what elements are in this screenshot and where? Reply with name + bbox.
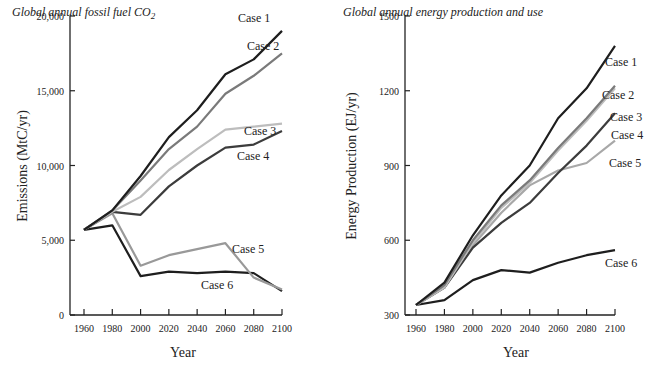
energy-line-case-1 (416, 46, 615, 305)
emissions-y-tick-label: 20,000 (37, 11, 65, 22)
energy-line-case-6 (416, 250, 615, 305)
energy-x-tick-label: 2020 (491, 323, 511, 334)
emissions-y-tick-label: 5,000 (42, 235, 65, 246)
emissions-x-tick-label: 1960 (74, 323, 94, 334)
energy-x-tick-label: 2060 (548, 323, 568, 334)
energy-label-case-6: Case 6 (605, 256, 637, 270)
energy-y-tick-label: 300 (384, 310, 399, 321)
energy-y-tick-label: 600 (384, 235, 399, 246)
energy-label-case-1: Case 1 (605, 55, 637, 69)
energy-y-axis-title: Energy Production (EJ/yr) (344, 92, 360, 240)
emissions-x-tick-label: 2060 (215, 323, 235, 334)
emissions-y-axis-title: Emissions (MtC/yr) (15, 110, 31, 222)
emissions-x-tick-label: 1980 (102, 323, 122, 334)
emissions-label-case-6: Case 6 (201, 278, 233, 292)
energy-x-tick-label: 2100 (605, 323, 625, 334)
emissions-x-tick-label: 2020 (159, 323, 179, 334)
emissions-x-tick-label: 2080 (244, 323, 264, 334)
emissions-chart-title: Global annual fossil fuel CO2 (12, 5, 156, 21)
emissions-x-tick-label: 2040 (187, 323, 207, 334)
emissions-y-tick-label: 10,000 (37, 161, 65, 172)
energy-series (416, 46, 615, 305)
emissions-y-tick-label: 15,000 (37, 86, 65, 97)
emissions-x-tick-label: 2000 (131, 323, 151, 334)
energy-line-case-4 (416, 113, 615, 305)
energy-x-tick-label: 2000 (463, 323, 483, 334)
energy-label-case-2: Case 2 (602, 88, 634, 102)
emissions-label-case-2: Case 2 (247, 39, 279, 53)
energy-chart: Global annual energy production and use … (343, 5, 643, 360)
chart-canvas: Global annual fossil fuel CO2 05,00010,0… (0, 0, 661, 374)
emissions-x-axis-title: Year (170, 345, 196, 360)
energy-x-tick-label: 2080 (577, 323, 597, 334)
emissions-line-case-2 (84, 53, 282, 229)
energy-axes: 3006009001200150019601980200020202040206… (379, 11, 625, 334)
emissions-label-case-4: Case 4 (237, 149, 269, 163)
energy-case-labels: Case 1Case 2Case 3Case 4Case 5Case 6 (602, 55, 643, 270)
energy-label-case-4: Case 4 (611, 128, 643, 142)
energy-label-case-3: Case 3 (610, 110, 642, 124)
energy-y-tick-label: 1500 (379, 11, 399, 22)
emissions-y-tick-label: 0 (59, 310, 64, 321)
energy-x-tick-label: 2040 (520, 323, 540, 334)
energy-label-case-5: Case 5 (609, 156, 641, 170)
emissions-line-case-6 (84, 225, 282, 291)
emissions-x-tick-label: 2100 (272, 323, 292, 334)
emissions-chart: Global annual fossil fuel CO2 05,00010,0… (12, 5, 292, 360)
emissions-label-case-1: Case 1 (238, 11, 270, 25)
emissions-label-case-3: Case 3 (244, 124, 276, 138)
emissions-case-labels: Case 1Case 2Case 3Case 4Case 5Case 6 (201, 11, 279, 292)
energy-y-tick-label: 900 (384, 161, 399, 172)
energy-x-tick-label: 1960 (406, 323, 426, 334)
energy-x-axis-title: Year (503, 345, 529, 360)
energy-x-tick-label: 1980 (434, 323, 454, 334)
energy-chart-title: Global annual energy production and use (343, 5, 544, 19)
energy-y-tick-label: 1200 (379, 86, 399, 97)
emissions-label-case-5: Case 5 (232, 242, 264, 256)
